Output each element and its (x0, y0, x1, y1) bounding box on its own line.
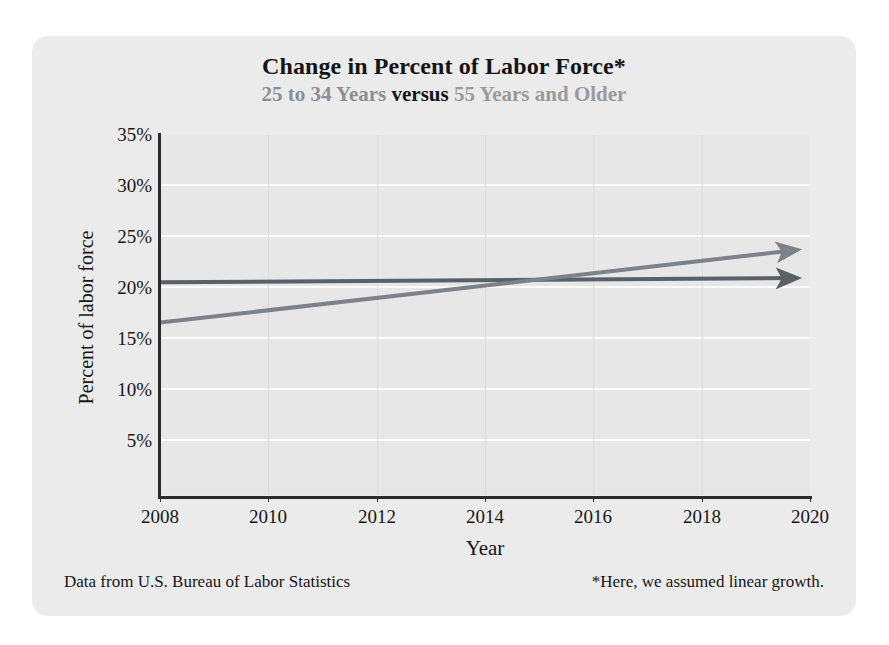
gridline-vertical (377, 135, 378, 495)
plot-area (160, 135, 810, 495)
x-tick-label: 2008 (115, 506, 205, 528)
y-tick-label: 5% (90, 430, 152, 452)
x-axis-tick (702, 496, 703, 502)
x-axis-tick (593, 496, 594, 502)
plot-wrapper: 35% 30% 25% 20% 15% 10% 5% 2008 2010 201… (32, 36, 856, 616)
y-tick-label: 25% (90, 226, 152, 248)
y-axis-line (158, 133, 161, 499)
footnote-source: Data from U.S. Bureau of Labor Statistic… (64, 572, 350, 592)
x-tick-label: 2014 (440, 506, 530, 528)
x-tick-label: 2016 (548, 506, 638, 528)
chart-panel: Change in Percent of Labor Force* 25 to … (32, 36, 856, 616)
gridline-vertical (702, 135, 703, 495)
y-tick-label: 35% (90, 124, 152, 146)
x-tick-label: 2012 (332, 506, 422, 528)
x-axis-title: Year (160, 536, 810, 561)
y-axis-title: Percent of labor force (75, 168, 98, 468)
y-tick-label: 15% (90, 328, 152, 350)
x-axis-tick (377, 496, 378, 502)
y-tick-label: 10% (90, 379, 152, 401)
y-tick-label: 20% (90, 277, 152, 299)
x-tick-label: 2010 (223, 506, 313, 528)
x-axis-tick (810, 496, 811, 502)
footnote-assumption: *Here, we assumed linear growth. (592, 572, 824, 592)
x-tick-label: 2020 (765, 506, 855, 528)
gridline-vertical (593, 135, 594, 495)
y-tick-label: 30% (90, 175, 152, 197)
x-axis-tick (485, 496, 486, 502)
gridline-vertical (268, 135, 269, 495)
x-tick-label: 2018 (657, 506, 747, 528)
chart-footer: Data from U.S. Bureau of Labor Statistic… (32, 572, 856, 598)
x-axis-tick (268, 496, 269, 502)
gridline-vertical (485, 135, 486, 495)
x-axis-tick (160, 496, 161, 502)
